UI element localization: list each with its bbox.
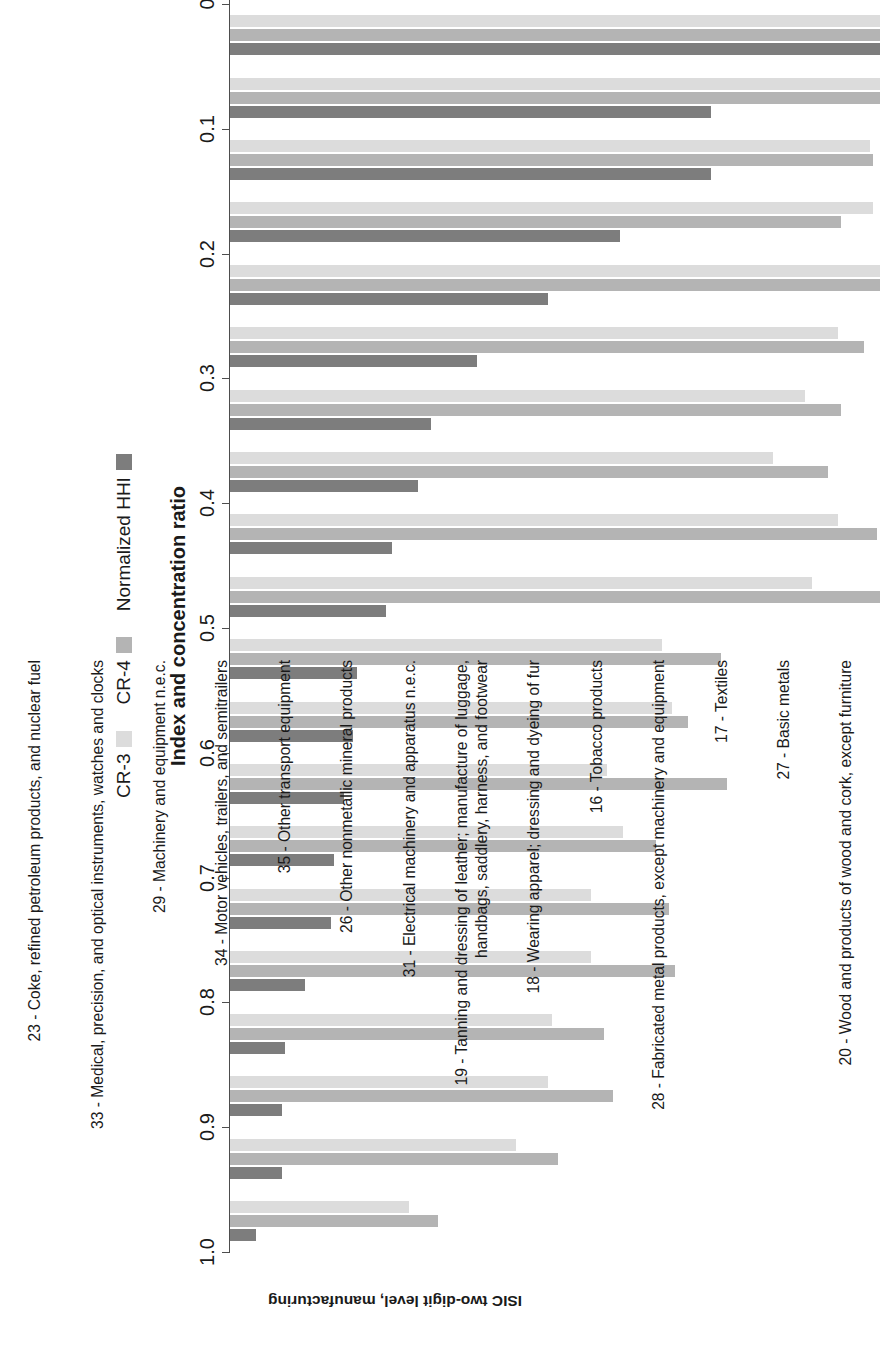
bar-cr-3 xyxy=(230,452,773,464)
axis-tick xyxy=(222,378,230,379)
category-axis-title: ISIC two-digit level, manufacturing xyxy=(0,1292,790,1310)
category-label: 23 - Coke, refined petroleum products, a… xyxy=(25,660,45,1260)
bar-normalized-hhi xyxy=(230,293,549,305)
category-label: 27 - Basic metals xyxy=(774,660,794,1260)
category-label: 26 - Other nonmetallic mineral products xyxy=(337,660,357,1260)
bar-group xyxy=(230,254,880,316)
bar-cr-3 xyxy=(230,514,838,526)
axis-tick xyxy=(222,4,230,5)
bar-cr-4 xyxy=(230,528,877,540)
legend-item: Normalized HHI xyxy=(113,454,135,611)
bar-cr-3 xyxy=(230,15,880,27)
category-label: 31 - Electrical machinery and apparatus … xyxy=(400,660,420,1260)
axis-tick-label: 0.3 xyxy=(196,364,219,392)
category-axis-labels: 23 - Coke, refined petroleum products, a… xyxy=(0,660,790,1280)
bar-cr-3 xyxy=(230,390,805,402)
bar-group xyxy=(230,191,880,253)
axis-tick-label: 0.2 xyxy=(196,240,219,268)
bar-cr-3 xyxy=(230,577,812,589)
bar-group xyxy=(230,503,880,565)
bar-cr-3 xyxy=(230,140,870,152)
axis-tick-label: 0.4 xyxy=(196,489,219,517)
axis-tick xyxy=(222,628,230,629)
bar-cr-4 xyxy=(230,279,880,291)
category-label: 28 - Fabricated metal products, except m… xyxy=(649,660,669,1260)
category-label: 34 - Motor vehicles, trailers, and semit… xyxy=(213,660,233,1260)
bar-group xyxy=(230,66,880,128)
bar-cr-3 xyxy=(230,78,880,90)
category-label: 18 - Wearing apparel; dressing and dyein… xyxy=(525,660,545,1260)
bar-normalized-hhi xyxy=(230,355,477,367)
legend-swatch-icon xyxy=(116,637,132,653)
bar-cr-4 xyxy=(230,216,841,228)
category-label: 19 - Tanning and dressing of leather; ma… xyxy=(452,660,491,1260)
bar-cr-3 xyxy=(230,327,838,339)
axis-tick xyxy=(222,503,230,504)
bar-group xyxy=(230,378,880,440)
category-label: 20 - Wood and products of wood and cork,… xyxy=(837,660,857,1260)
bar-cr-4 xyxy=(230,591,880,603)
bar-group xyxy=(230,441,880,503)
bar-group xyxy=(230,4,880,66)
bar-cr-3 xyxy=(230,202,874,214)
bar-cr-3 xyxy=(230,639,662,651)
category-label: 17 - Textiles xyxy=(712,660,732,1260)
bar-cr-4 xyxy=(230,154,874,166)
category-label: 29 - Machinery and equipment n.e.c. xyxy=(150,660,170,1260)
bar-cr-4 xyxy=(230,404,841,416)
bar-group xyxy=(230,566,880,628)
bar-normalized-hhi xyxy=(230,418,432,430)
legend-swatch-icon xyxy=(116,454,132,470)
category-label: 35 - Other transport equipment xyxy=(275,660,295,1260)
bar-cr-4 xyxy=(230,29,880,41)
category-label: 33 - Medical, precision, and optical ins… xyxy=(88,660,108,1260)
axis-tick xyxy=(222,254,230,255)
bar-normalized-hhi xyxy=(230,168,711,180)
chart-page: 00.10.20.30.40.50.60.70.80.91.0 Index an… xyxy=(0,0,880,1348)
axis-tick-label: 0.1 xyxy=(196,115,219,143)
bar-cr-3 xyxy=(230,265,880,277)
bar-normalized-hhi xyxy=(230,480,419,492)
bar-group xyxy=(230,316,880,378)
bar-group xyxy=(230,129,880,191)
bar-cr-4 xyxy=(230,92,880,104)
bar-normalized-hhi xyxy=(230,542,393,554)
bar-normalized-hhi xyxy=(230,43,880,55)
axis-tick-label: 0 xyxy=(196,0,219,10)
category-label: 16 - Tobacco products xyxy=(587,660,607,1260)
bar-normalized-hhi xyxy=(230,106,711,118)
legend-label: Normalized HHI xyxy=(113,477,135,611)
bar-normalized-hhi xyxy=(230,605,386,617)
bar-cr-4 xyxy=(230,341,864,353)
axis-tick-label: 0.5 xyxy=(196,614,219,642)
bar-normalized-hhi xyxy=(230,230,620,242)
axis-tick xyxy=(222,129,230,130)
bar-cr-4 xyxy=(230,466,828,478)
